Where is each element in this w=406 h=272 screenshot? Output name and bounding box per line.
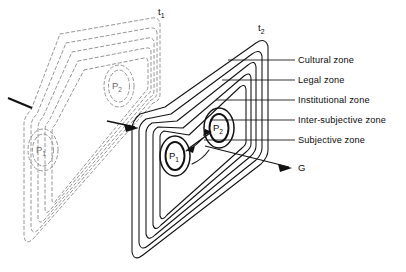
node-label-p1-t2-sub: 1 (175, 156, 179, 163)
zone-label-subjective: Subjective zone (298, 135, 365, 145)
occlusion-mask (128, 40, 276, 268)
node-label-p2-t2-sub: 2 (219, 128, 223, 135)
g-label: G (298, 162, 305, 173)
entry-tick-mark (8, 98, 32, 108)
zone-label-legal: Legal zone (298, 75, 344, 85)
zone-label-cultural: Cultural zone (298, 55, 354, 65)
node-label-p1-t2: P1 (169, 150, 179, 163)
plane-label-t1: t1 (158, 6, 164, 19)
plane-label-t2: t2 (258, 22, 264, 35)
zone-label-intersubjective: Inter-subjective zone (298, 115, 386, 125)
plane-label-t2-sub: 2 (261, 28, 265, 35)
node-label-p1-t1: P1 (36, 144, 46, 157)
figure-root: t1 t2 P1 P2 P1 P2 G Cultural zone Legal … (0, 0, 406, 272)
zone-label-institutional: Institutional zone (298, 95, 370, 105)
node-label-p2-t2: P2 (213, 122, 223, 135)
node-label-p2-t1: P2 (112, 80, 122, 93)
node-label-p1-t1-sub: 1 (42, 150, 46, 157)
plane-label-t1-sub: 1 (161, 12, 165, 19)
node-label-p2-t1-sub: 2 (118, 86, 122, 93)
